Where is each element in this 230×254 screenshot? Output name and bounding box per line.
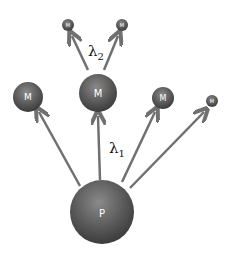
node-m-top-right: M — [116, 19, 128, 31]
node-m-center: M — [79, 74, 117, 112]
rate-label-lambda-2: λ2 — [88, 42, 104, 62]
rate-label-lambda-1: λ1 — [109, 139, 125, 159]
arrow-p-to-m-right — [122, 112, 155, 182]
node-m-top-left: M — [62, 19, 74, 31]
arrow-p-to-m-center — [98, 116, 100, 180]
node-m-left-label: M — [24, 92, 32, 102]
node-m-top-left-label: M — [66, 22, 70, 28]
node-m-top-right-label: M — [120, 22, 124, 28]
node-p: P — [70, 180, 134, 244]
node-m-far-right: M — [206, 95, 218, 107]
arrow-m-center-to-top-left — [72, 36, 88, 70]
node-m-left: M — [13, 82, 43, 112]
node-p-label: P — [99, 208, 105, 219]
arrow-p-to-m-far-right — [130, 112, 204, 188]
arrow-p-to-m-left — [39, 112, 80, 186]
node-m-right-label: M — [160, 94, 167, 103]
mutation-tree-diagram: P M M M M M M λ1 λ2 — [0, 0, 230, 254]
node-m-center-label: M — [94, 88, 103, 99]
node-m-far-right-label: M — [210, 98, 214, 104]
node-m-right: M — [152, 87, 174, 109]
arrow-m-center-to-top-right — [104, 36, 118, 70]
